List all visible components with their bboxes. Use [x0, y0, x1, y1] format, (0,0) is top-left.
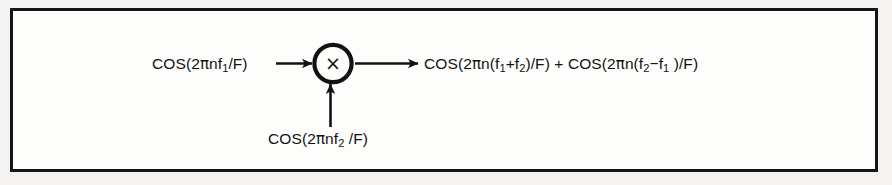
output-term1-pi: π: [472, 55, 481, 73]
input-2-pi: π: [316, 130, 325, 148]
figure-border: [10, 8, 878, 172]
input-2-prefix: COS: [268, 130, 302, 147]
output-term1-n: n(f: [481, 55, 499, 72]
output-term2-open: (2: [602, 55, 616, 72]
output-term2-pi: π: [616, 55, 625, 73]
output-term1-close: )/F): [525, 55, 550, 72]
output-plus-operator: +: [550, 55, 568, 72]
output-term1-operator: +f: [506, 55, 520, 72]
input-1-mid: nf: [209, 55, 222, 72]
input-1-prefix: COS: [152, 55, 186, 72]
input-2-open: (2: [302, 130, 316, 147]
input-2-label: COS(2πnf2 /F): [268, 131, 368, 149]
output-label: COS(2πn(f1+f2)/F) + COS(2πn(f2−f1 )/F): [424, 56, 698, 74]
output-term2-operator: −f: [650, 55, 664, 72]
output-term2-prefix: COS: [568, 55, 602, 72]
input-1-pi: π: [200, 55, 209, 73]
input-2-mid: nf: [325, 130, 338, 147]
output-term1-open: (2: [458, 55, 472, 72]
figure-root: × COS(2πnf1/F) COS(2πnf2 /F) COS(2πn(f1+…: [0, 0, 892, 185]
output-term2-close: )/F): [669, 55, 698, 72]
multiply-icon: ×: [313, 43, 353, 83]
output-term1-prefix: COS: [424, 55, 458, 72]
output-term2-n: n(f: [625, 55, 643, 72]
input-1-suffix: /F): [228, 55, 247, 72]
input-1-open: (2: [186, 55, 200, 72]
input-1-label: COS(2πnf1/F): [152, 56, 248, 74]
input-2-suffix: /F): [344, 130, 368, 147]
